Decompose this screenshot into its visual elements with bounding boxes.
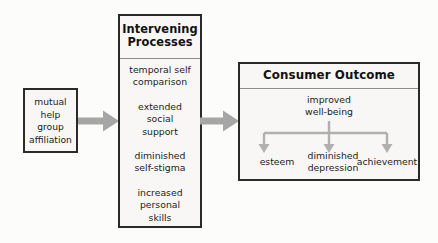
mediator-item-line: increased xyxy=(120,187,200,199)
outcome-primary-line-2: well-being xyxy=(240,106,418,118)
outcome-title: Consumer Outcome xyxy=(240,69,418,83)
mediator-item-line: temporal self xyxy=(120,64,200,76)
mediator-item-line: self-stigma xyxy=(120,162,200,174)
antecedent-box: mutual help group affiliation xyxy=(23,88,78,153)
mediator-item-line: extended xyxy=(120,101,200,113)
outcome-branch-line: achievement xyxy=(352,156,422,168)
mediator-item-line: social xyxy=(120,113,200,125)
outcome-box: Consumer Outcome improved well-being est… xyxy=(238,62,420,181)
outcome-primary-label: improved well-being xyxy=(240,94,418,119)
mediator-box: Intervening Processes temporal self comp… xyxy=(118,14,202,228)
mediator-item: temporal self comparison xyxy=(120,64,200,89)
antecedent-label-group: mutual help group affiliation xyxy=(25,96,76,146)
mediator-item: increased personal skills xyxy=(120,187,200,224)
mediator-item-line: support xyxy=(120,126,200,138)
outcome-branch-label: achievement xyxy=(352,156,422,168)
mediator-title: Intervening Processes xyxy=(120,23,200,50)
mediator-title-line-1: Intervening xyxy=(120,23,200,36)
arrow-antecedent-to-mediator-icon xyxy=(78,108,120,134)
mediator-item: diminished self-stigma xyxy=(120,150,200,175)
outcome-title-divider xyxy=(240,88,418,89)
antecedent-line-2: help xyxy=(25,109,76,122)
mediator-title-line-2: Processes xyxy=(120,36,200,49)
antecedent-line-3: group xyxy=(25,121,76,134)
mediator-item-list: temporal self comparison extended social… xyxy=(120,64,200,224)
outcome-primary-line-1: improved xyxy=(240,94,418,106)
mediator-item-line: comparison xyxy=(120,76,200,88)
arrow-mediator-to-outcome-icon xyxy=(200,108,240,134)
mediator-title-divider xyxy=(120,58,200,59)
diagram-canvas: mutual help group affiliation Intervenin… xyxy=(0,0,438,243)
mediator-item-line: skills xyxy=(120,212,200,224)
antecedent-line-4: affiliation xyxy=(25,134,76,147)
mediator-item: extended social support xyxy=(120,101,200,138)
antecedent-line-1: mutual xyxy=(25,96,76,109)
mediator-item-line: diminished xyxy=(120,150,200,162)
mediator-item-line: personal xyxy=(120,199,200,211)
